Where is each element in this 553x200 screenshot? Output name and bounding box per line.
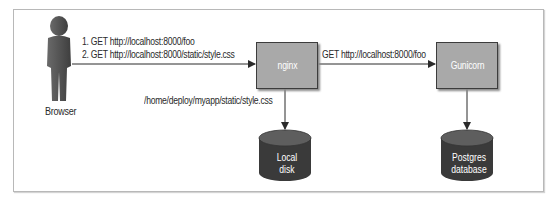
request-1-label: 1. GET http://localhost:8000/foo: [82, 36, 195, 47]
local-disk-label-line1: Local: [265, 152, 310, 164]
local-disk-node: Local disk: [265, 152, 310, 176]
browser-label: Browser: [45, 105, 76, 117]
nginx-node: nginx: [256, 42, 318, 89]
person-icon: [47, 16, 71, 101]
postgres-label-line2: database: [447, 164, 492, 176]
gunicorn-label: Gunicorn: [450, 60, 484, 71]
gunicorn-node: Gunicorn: [436, 42, 498, 89]
static-path-label: /home/deploy/myapp/static/style.css: [144, 95, 273, 106]
local-disk-label-line2: disk: [265, 164, 310, 176]
nginx-label: nginx: [277, 60, 297, 71]
request-2-label: 2. GET http://localhost:8000/static/styl…: [82, 49, 235, 60]
postgres-label-line1: Postgres: [447, 152, 492, 164]
postgres-node: Postgres database: [447, 152, 492, 176]
proxy-request-label: GET http://localhost:8000/foo: [322, 49, 426, 60]
